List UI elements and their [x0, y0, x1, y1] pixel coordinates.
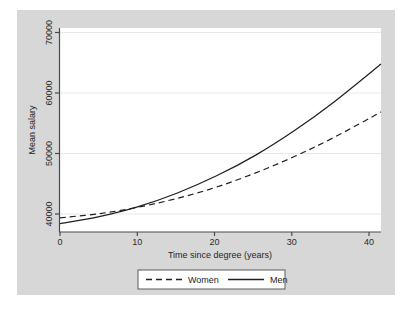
- chart-legend: Women Men: [138, 270, 288, 289]
- legend-label-men: Men: [270, 275, 288, 285]
- x-tick-label-0: 0: [57, 237, 62, 247]
- y-axis-title: Mean salary: [27, 105, 37, 155]
- y-tick-label-0: 70000: [44, 20, 54, 45]
- x-tick-label-3: 30: [287, 237, 297, 247]
- x-tick-label-4: 40: [364, 237, 374, 247]
- chart-svg: 70000 60000 50000 40000 Mean salary 0 10…: [0, 0, 409, 309]
- x-tick-label-2: 20: [209, 237, 219, 247]
- figure-container: 70000 60000 50000 40000 Mean salary 0 10…: [0, 0, 409, 309]
- y-axis-ticks: [55, 33, 60, 215]
- y-tick-label-1: 60000: [44, 80, 54, 105]
- plot-area-background: [60, 28, 381, 232]
- x-axis-title: Time since degree (years): [168, 250, 272, 260]
- x-axis-ticks: [60, 232, 369, 236]
- y-tick-label-2: 50000: [44, 141, 54, 166]
- y-axis-tick-labels: 70000 60000 50000 40000: [44, 20, 54, 227]
- x-tick-label-1: 10: [132, 237, 142, 247]
- y-tick-label-3: 40000: [44, 201, 54, 226]
- x-axis-tick-labels: 0 10 20 30 40: [57, 237, 374, 247]
- legend-label-women: Women: [188, 275, 219, 285]
